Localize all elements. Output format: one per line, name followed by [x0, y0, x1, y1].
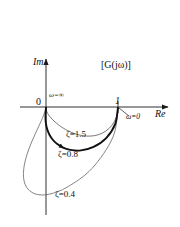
imaginary-axis-label: Im: [33, 57, 44, 67]
omega-infinity-label: ω=∞: [49, 92, 64, 99]
curve-label-zeta-0-4: ζ=0.4: [55, 190, 75, 199]
omega-zero-label: ω=0: [126, 113, 140, 121]
real-axis-label: Re: [155, 109, 166, 119]
nyquist-plot-canvas: [0, 0, 180, 227]
origin-tick-label: 0: [36, 97, 41, 107]
transfer-function-label: [G(jω)]: [101, 60, 131, 70]
curve-label-zeta-1-5: ζ=1.5: [66, 130, 86, 139]
unit-tick-label: 1: [115, 96, 120, 106]
curve-label-zeta-0-8: ζ=0.8: [58, 150, 78, 159]
nyquist-figure: Im Re 0 1 [G(jω)] ω=∞ ω=0 ζ=1.5 ζ=0.8 ζ=…: [0, 0, 180, 227]
